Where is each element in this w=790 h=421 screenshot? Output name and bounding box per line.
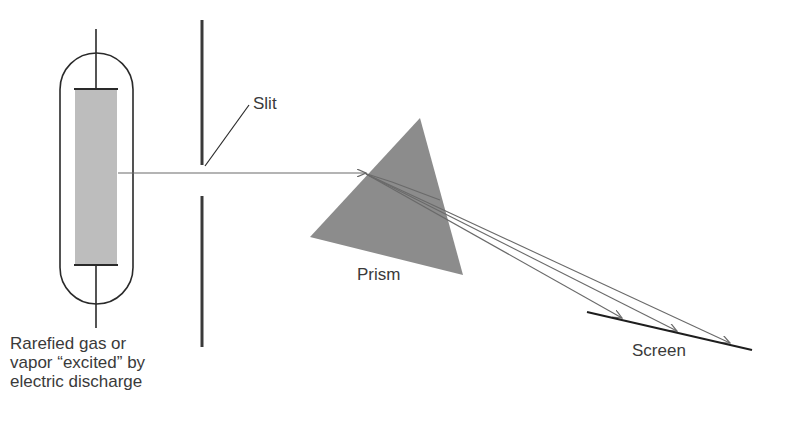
source-caption-line-1: Rarefied gas or bbox=[10, 334, 145, 353]
prism-label: Prism bbox=[357, 265, 400, 284]
screen-label: Screen bbox=[632, 341, 686, 360]
discharge-tube bbox=[60, 29, 133, 328]
source-caption-line-3: electric discharge bbox=[10, 372, 145, 391]
slit-barrier bbox=[202, 20, 249, 347]
source-caption: Rarefied gas or vapor “excited” by elect… bbox=[10, 334, 145, 391]
glowing-gas-column bbox=[75, 89, 117, 265]
slit-leader-line bbox=[205, 105, 249, 166]
source-caption-line-2: vapor “excited” by bbox=[10, 353, 145, 372]
prism-shape bbox=[310, 118, 463, 275]
slit-label: Slit bbox=[253, 94, 277, 113]
